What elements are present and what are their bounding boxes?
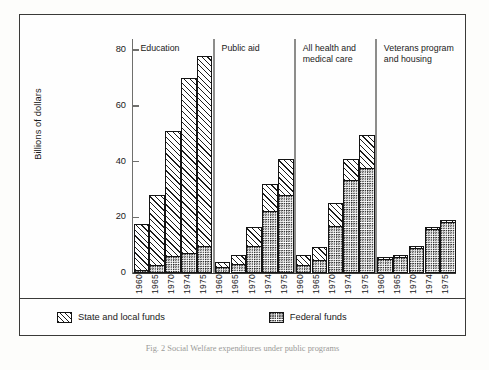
stacked-bar[interactable] <box>246 227 262 273</box>
y-tick-label: 0 <box>98 267 126 277</box>
legend-item-state-and-local: State and local funds <box>57 312 165 323</box>
bar-segment-state-and-local <box>198 57 212 246</box>
stacked-bar[interactable] <box>328 203 344 273</box>
bar-segment-state-and-local <box>150 196 164 265</box>
stacked-bar[interactable] <box>134 224 150 273</box>
stacked-bar[interactable] <box>377 257 393 273</box>
bar-segment-federal <box>394 257 408 272</box>
bar-segment-federal <box>216 267 230 272</box>
bar-segment-federal <box>360 168 374 272</box>
bar-segment-federal <box>198 246 212 272</box>
y-tick-label: 80 <box>98 44 126 54</box>
stacked-bar[interactable] <box>231 255 247 273</box>
bar-group: All health and medical care <box>294 39 375 273</box>
bar-group-title: Public aid <box>222 43 260 54</box>
bar-segment-federal <box>297 265 311 272</box>
bar-segment-state-and-local <box>232 256 246 263</box>
bar-segment-state-and-local <box>182 79 196 253</box>
stacked-bar[interactable] <box>165 131 181 273</box>
bar-segment-federal <box>279 195 293 272</box>
bar-segment-state-and-local <box>313 248 327 261</box>
bar-segment-federal <box>263 211 277 272</box>
bar-segment-state-and-local <box>344 160 358 181</box>
y-axis-label: Billions of dollars <box>33 44 43 204</box>
bar-segment-federal <box>410 248 424 272</box>
bar-group-title: Veterans program and housing <box>384 43 454 64</box>
bar-segment-federal <box>441 222 455 272</box>
bar-group-title: All health and medical care <box>303 43 356 64</box>
bar-group: Veterans program and housing <box>375 39 456 273</box>
bar-group: Education <box>133 39 212 273</box>
legend-item-federal: Federal funds <box>269 312 347 323</box>
bar-segment-state-and-local <box>360 136 374 168</box>
bar-segment-state-and-local <box>135 225 149 270</box>
legend-label-state-and-local: State and local funds <box>78 312 165 322</box>
figure-caption: Fig. 2 Social Welfare expenditures under… <box>19 344 466 353</box>
stacked-bar[interactable] <box>149 195 165 273</box>
bar-segment-federal <box>247 246 261 272</box>
bar-group: Public aid <box>213 39 294 273</box>
bar-group-title: Education <box>140 43 179 54</box>
hatch-swatch-icon <box>57 312 72 323</box>
bar-segment-federal <box>182 253 196 272</box>
bar-segment-federal <box>150 265 164 272</box>
stacked-bar[interactable] <box>215 262 231 273</box>
y-tick-label: 40 <box>98 156 126 166</box>
bar-segment-federal <box>135 270 149 272</box>
stacked-bar[interactable] <box>278 159 294 273</box>
stacked-bar[interactable] <box>197 56 213 273</box>
bar-segment-federal <box>313 260 327 272</box>
stacked-bar[interactable] <box>409 246 425 273</box>
stacked-bar[interactable] <box>425 227 441 273</box>
stacked-bar[interactable] <box>262 184 278 273</box>
stipple-swatch-icon <box>269 312 284 323</box>
bar-segment-state-and-local <box>247 228 261 246</box>
bar-segment-state-and-local <box>263 185 277 211</box>
bar-segment-federal <box>166 256 180 272</box>
stacked-bar[interactable] <box>343 159 359 273</box>
bar-segment-federal <box>378 259 392 272</box>
bar-segment-federal <box>344 180 358 272</box>
bar-segment-state-and-local <box>329 204 343 226</box>
stacked-bar[interactable] <box>359 135 375 273</box>
bars-area: EducationPublic aidAll health and medica… <box>133 39 456 273</box>
legend-label-federal: Federal funds <box>290 312 347 322</box>
y-tick-label: 60 <box>98 100 126 110</box>
stacked-bar[interactable] <box>296 255 312 273</box>
bar-segment-federal <box>232 264 246 272</box>
stacked-bar[interactable] <box>440 220 456 273</box>
figure-frame: Billions of dollars 020406080 EducationP… <box>19 14 466 336</box>
y-tick-label: 20 <box>98 211 126 221</box>
bar-segment-federal <box>426 229 440 272</box>
bar-segment-state-and-local <box>166 132 180 256</box>
stacked-bar[interactable] <box>393 255 409 273</box>
stacked-bar[interactable] <box>312 247 328 273</box>
bar-segment-federal <box>329 226 343 272</box>
bar-segment-state-and-local <box>279 160 293 196</box>
chart-legend: State and local funds Federal funds <box>20 298 465 336</box>
bar-segment-state-and-local <box>297 256 311 264</box>
stacked-bar[interactable] <box>181 78 197 273</box>
plot-area: Billions of dollars 020406080 EducationP… <box>20 15 465 335</box>
